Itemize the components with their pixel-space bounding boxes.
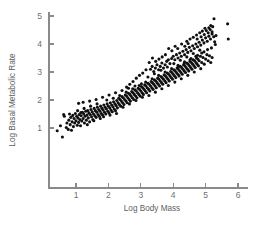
data-point [158, 84, 161, 87]
data-point [86, 123, 89, 126]
data-point [204, 58, 207, 61]
data-point [155, 86, 158, 89]
data-point [209, 61, 212, 64]
scatter-plot-figure: 123456 12345 Log Body Mass Log Basal Met… [0, 0, 254, 225]
x-tick-label: 6 [236, 190, 241, 200]
data-point [56, 129, 59, 132]
data-point [202, 41, 205, 44]
data-point [90, 115, 93, 118]
data-point [80, 114, 83, 117]
data-point [125, 91, 128, 94]
data-point [185, 48, 188, 51]
data-point [83, 121, 86, 124]
data-point [151, 65, 154, 68]
data-point [70, 129, 73, 132]
data-point [140, 82, 143, 85]
data-point [175, 53, 178, 56]
data-point [142, 93, 145, 96]
x-axis-title: Log Body Mass [124, 204, 180, 213]
data-point [69, 123, 72, 126]
data-point [226, 22, 229, 25]
data-point [160, 61, 163, 64]
data-point [67, 119, 70, 122]
data-point [208, 54, 211, 57]
data-point [203, 33, 206, 36]
data-point [189, 37, 192, 40]
data-point [129, 100, 132, 103]
data-point [189, 58, 192, 61]
data-point [164, 70, 167, 73]
data-point [207, 59, 210, 62]
data-point [96, 102, 99, 105]
x-tick-label: 3 [138, 190, 143, 200]
data-point [71, 114, 74, 117]
data-point [79, 111, 82, 114]
y-axis-title: Log Basal Metabolic Rate [8, 53, 17, 147]
data-point [152, 70, 155, 73]
data-point [227, 37, 230, 40]
data-point [188, 46, 191, 49]
x-axis-ticks: 123456 [74, 183, 241, 200]
data-point [207, 35, 210, 38]
data-point [99, 117, 102, 120]
data-point [209, 37, 212, 40]
data-point [162, 67, 165, 70]
data-point [192, 52, 195, 55]
data-point [196, 37, 199, 40]
data-point [174, 76, 177, 79]
data-point [197, 64, 200, 67]
data-point [193, 70, 196, 73]
data-point [146, 75, 149, 78]
data-point [76, 124, 79, 127]
data-point [214, 43, 217, 46]
data-point [183, 53, 186, 56]
data-point [87, 116, 90, 119]
data-point [179, 59, 182, 62]
data-point [194, 66, 197, 69]
data-point [204, 36, 207, 39]
data-point [183, 45, 186, 48]
data-points-group [56, 17, 230, 138]
data-point [59, 124, 62, 127]
data-point [177, 74, 180, 77]
data-point [157, 74, 160, 77]
data-point [184, 71, 187, 74]
data-point [67, 128, 70, 131]
data-point [191, 44, 194, 47]
data-point [134, 99, 137, 102]
data-point [144, 68, 147, 71]
data-point [195, 33, 198, 36]
data-point [192, 36, 195, 39]
data-point [121, 106, 124, 109]
data-point [159, 65, 162, 68]
x-tick-label: 2 [106, 190, 111, 200]
data-point [183, 61, 186, 64]
data-point [118, 94, 121, 97]
data-point [176, 47, 179, 50]
data-point [164, 53, 167, 56]
data-point [199, 44, 202, 47]
data-point [167, 58, 170, 61]
data-point [168, 62, 171, 65]
data-point [200, 51, 203, 54]
data-point [145, 91, 148, 94]
data-point [111, 110, 114, 113]
data-point [180, 77, 183, 80]
data-point [206, 48, 209, 51]
data-point [104, 112, 107, 115]
data-point [203, 63, 206, 66]
data-point [125, 86, 128, 89]
data-point [160, 87, 163, 90]
data-point [65, 121, 68, 124]
data-point [141, 96, 144, 99]
data-point [200, 35, 203, 38]
data-point [63, 115, 66, 118]
data-point [187, 42, 190, 45]
data-point [68, 112, 71, 115]
data-point [72, 125, 75, 128]
y-axis-ticks: 12345 [37, 11, 54, 133]
data-point [200, 61, 203, 64]
data-point [133, 84, 136, 87]
data-point [186, 51, 189, 54]
data-point [189, 49, 192, 52]
